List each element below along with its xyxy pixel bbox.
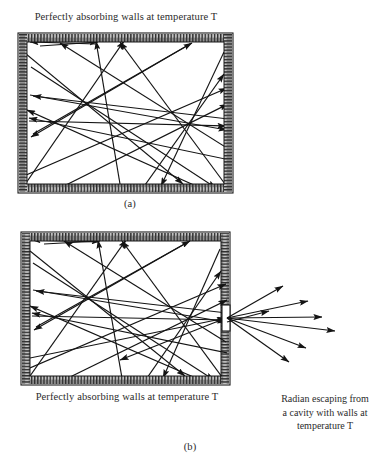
- cavity-panel-a: [18, 33, 233, 193]
- ray: [227, 286, 283, 318]
- cavity-diagram-svg: [0, 0, 388, 469]
- blackbody-cavity-figure: Perfectly absorbing walls at temperature…: [0, 0, 388, 469]
- cavity-b-walls: [21, 232, 230, 385]
- cavity-panel-b: [21, 232, 335, 385]
- cavity-a-walls: [18, 33, 233, 193]
- ray: [227, 301, 308, 318]
- escaping-radiation-rays: [227, 286, 335, 362]
